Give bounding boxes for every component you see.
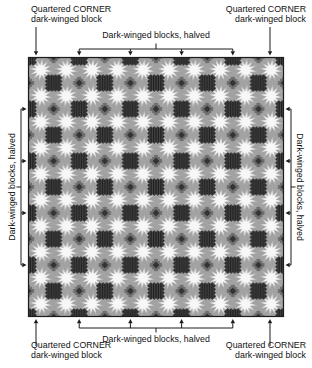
label-bottom-edge: Dark-winged blocks, halved bbox=[56, 334, 256, 344]
label-left-edge: Dark-winged blocks, halved bbox=[7, 122, 17, 252]
label-line: dark-winged block bbox=[226, 350, 306, 360]
label-line: dark-winged block bbox=[31, 350, 111, 360]
quilt-top bbox=[28, 57, 284, 317]
label-top-right-corner: Quartered CORNER dark-winged block bbox=[226, 4, 306, 24]
label-right-edge: Dark-winged blocks, halved bbox=[295, 122, 305, 252]
label-line: dark-winged block bbox=[31, 14, 111, 24]
label-line: dark-winged block bbox=[226, 14, 306, 24]
label-top-edge: Dark-winged blocks, halved bbox=[56, 30, 256, 40]
label-top-left-corner: Quartered CORNER dark-winged block bbox=[31, 4, 111, 24]
quilt-pattern-image bbox=[0, 0, 312, 368]
label-line: Quartered CORNER bbox=[31, 4, 111, 14]
label-line: Quartered CORNER bbox=[226, 4, 306, 14]
quilt-assembly-diagram: Quartered CORNER dark-winged block Quart… bbox=[0, 0, 312, 368]
